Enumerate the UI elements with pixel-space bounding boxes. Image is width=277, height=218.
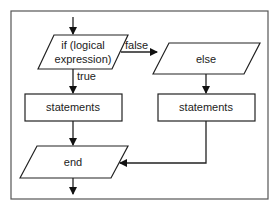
cropped-caption xyxy=(0,211,277,218)
else-to-end-arrow xyxy=(120,121,206,163)
false-label: false xyxy=(125,39,148,51)
end-label: end xyxy=(64,156,82,168)
false-statements-label: statements xyxy=(179,101,233,113)
condition-label-line1: if (logical xyxy=(61,39,104,51)
true-label: true xyxy=(77,70,96,82)
flowchart-canvas: if (logical expression) false else true … xyxy=(0,0,277,218)
condition-label-line2: expression) xyxy=(55,53,112,65)
else-label: else xyxy=(196,53,216,65)
true-statements-label: statements xyxy=(46,101,100,113)
